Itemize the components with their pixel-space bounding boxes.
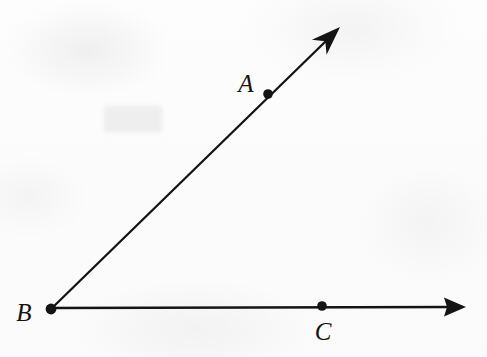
ray-bc-line <box>51 307 452 308</box>
geometry-figure: A B C <box>0 0 487 357</box>
point-b-dot <box>46 304 57 315</box>
point-c-dot <box>317 301 327 311</box>
point-c-label: C <box>315 319 332 344</box>
point-a-label: A <box>238 71 253 96</box>
geometry-canvas <box>0 0 487 357</box>
ray-ba-line <box>51 41 326 309</box>
point-a-dot <box>263 89 273 99</box>
ray-bc-arrowhead <box>444 298 466 317</box>
point-b-label: B <box>16 300 31 325</box>
